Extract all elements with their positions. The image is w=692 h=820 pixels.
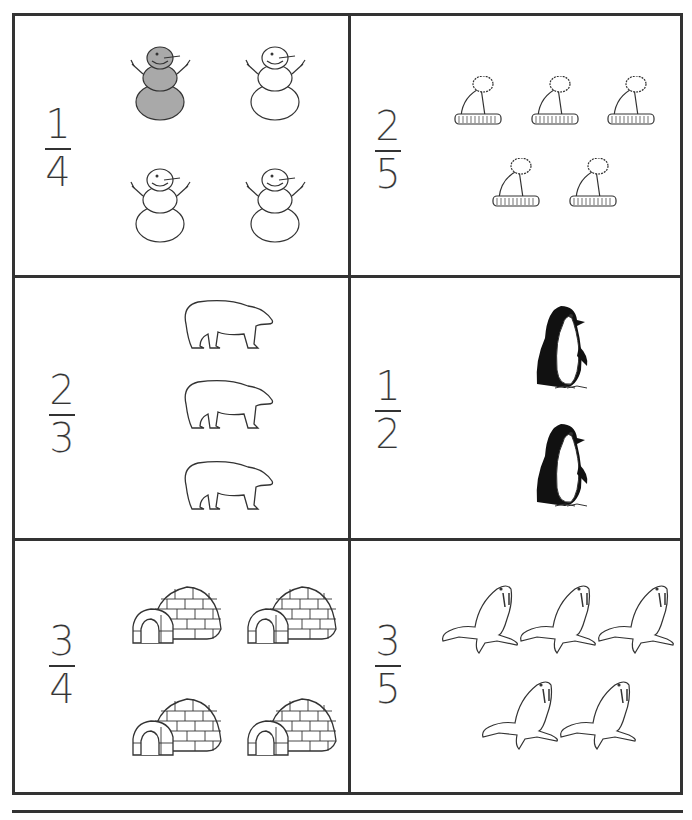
- snowman-icon: [245, 166, 307, 246]
- denominator: 4: [49, 669, 74, 709]
- cell-walruses: 3 5: [351, 541, 683, 795]
- snowman-icon: [130, 166, 192, 246]
- fraction-label: 1 2: [375, 366, 401, 454]
- winter-hat-icon: [489, 158, 543, 210]
- snowman-icon-shaded: [130, 44, 192, 124]
- numerator: 1: [45, 104, 70, 144]
- cell-penguins: 1 2: [351, 278, 683, 538]
- fraction-label: 2 5: [375, 106, 401, 194]
- cell-igloos: 3 4: [15, 541, 348, 795]
- igloo-icon: [131, 575, 225, 647]
- walrus-icon: [439, 579, 521, 657]
- denominator: 5: [375, 154, 400, 194]
- penguin-icon: [531, 418, 593, 514]
- numerator: 3: [375, 621, 400, 661]
- polar-bear-icon: [178, 374, 278, 434]
- igloo-icon: [131, 687, 225, 759]
- fraction-label: 3 5: [375, 621, 401, 709]
- fraction-label: 2 3: [49, 370, 75, 458]
- winter-hat-icon: [604, 76, 658, 128]
- walrus-icon: [595, 579, 677, 657]
- walrus-icon: [479, 675, 561, 753]
- fraction-label: 1 4: [45, 104, 71, 192]
- fraction-worksheet-grid: 1 4 2 5 2 3 1: [12, 13, 683, 795]
- numerator: 2: [49, 370, 74, 410]
- numerator: 1: [375, 366, 400, 406]
- walrus-icon: [517, 579, 599, 657]
- denominator: 4: [45, 152, 70, 192]
- winter-hat-icon: [451, 76, 505, 128]
- penguin-icon: [531, 300, 593, 396]
- walrus-icon: [557, 675, 639, 753]
- numerator: 3: [49, 621, 74, 661]
- snowman-icon: [245, 44, 307, 124]
- denominator: 5: [375, 669, 400, 709]
- footer-rule: [12, 810, 683, 813]
- winter-hat-icon: [528, 76, 582, 128]
- polar-bear-icon: [178, 455, 278, 515]
- numerator: 2: [375, 106, 400, 146]
- polar-bear-icon: [178, 294, 278, 354]
- cell-polar-bears: 2 3: [15, 278, 348, 538]
- fraction-label: 3 4: [49, 621, 75, 709]
- denominator: 2: [375, 414, 400, 454]
- cell-snowmen: 1 4: [15, 16, 348, 275]
- winter-hat-icon: [566, 158, 620, 210]
- igloo-icon: [246, 575, 340, 647]
- cell-winter-hats: 2 5: [351, 16, 683, 275]
- denominator: 3: [49, 418, 74, 458]
- igloo-icon: [246, 687, 340, 759]
